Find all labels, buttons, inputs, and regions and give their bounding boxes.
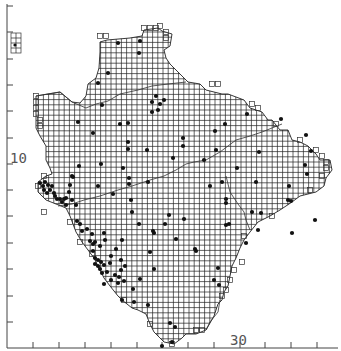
record-dot xyxy=(254,180,258,184)
record-dot xyxy=(96,81,100,85)
record-dot xyxy=(173,325,177,329)
record-dot xyxy=(214,148,218,152)
internal-boundaries xyxy=(36,82,282,330)
record-dot xyxy=(102,231,106,235)
inset-grid xyxy=(11,33,21,53)
region-grid xyxy=(0,0,341,351)
left-axis xyxy=(7,4,13,348)
record-dot xyxy=(208,184,212,188)
record-dot xyxy=(304,133,308,137)
record-dot xyxy=(212,278,216,282)
record-dot xyxy=(102,263,106,267)
record-dot xyxy=(245,112,249,116)
record-dot xyxy=(91,242,95,246)
record-dot xyxy=(129,198,133,202)
record-dot xyxy=(305,172,309,176)
record-dot xyxy=(113,273,117,277)
record-dot xyxy=(67,190,71,194)
record-dot xyxy=(109,254,113,258)
record-dot xyxy=(290,231,294,235)
record-dot xyxy=(99,162,103,166)
record-dot xyxy=(174,237,178,241)
record-dot xyxy=(68,183,72,187)
record-dot xyxy=(287,184,291,188)
record-dot xyxy=(132,300,136,304)
record-dot xyxy=(99,260,103,264)
record-dot xyxy=(145,148,149,152)
record-dot xyxy=(137,222,141,226)
record-dot xyxy=(116,41,120,45)
record-dot xyxy=(181,136,185,140)
record-dot xyxy=(117,275,121,279)
record-dot xyxy=(171,156,175,160)
record-dot xyxy=(80,229,84,233)
record-dot xyxy=(138,39,142,43)
record-dot xyxy=(123,264,127,268)
record-dot xyxy=(98,244,102,248)
record-dot xyxy=(152,267,156,271)
record-dot xyxy=(46,183,50,187)
record-dot xyxy=(313,218,317,222)
record-dot xyxy=(279,117,283,121)
record-dot xyxy=(250,210,254,214)
record-dot xyxy=(120,238,124,242)
record-dot xyxy=(224,201,228,205)
record-dot xyxy=(43,180,47,184)
record-dot xyxy=(98,267,102,271)
record-dot xyxy=(119,268,123,272)
record-dot xyxy=(116,281,120,285)
record-dot xyxy=(85,227,89,231)
record-dot xyxy=(119,258,123,262)
record-dot xyxy=(96,184,100,188)
record-dot xyxy=(286,198,290,202)
record-dot xyxy=(100,103,104,107)
record-dot xyxy=(70,198,74,202)
record-dot xyxy=(130,210,134,214)
distribution-map: 10 30 xyxy=(0,0,341,351)
record-dot xyxy=(259,211,263,215)
record-dot xyxy=(114,247,118,251)
record-dot xyxy=(244,241,248,245)
record-dot xyxy=(156,108,160,112)
record-dot xyxy=(111,192,115,196)
record-dot xyxy=(181,144,185,148)
record-dot xyxy=(126,140,130,144)
record-dot xyxy=(194,249,198,253)
record-dot xyxy=(224,223,228,227)
record-dot xyxy=(120,298,124,302)
record-dot xyxy=(109,278,113,282)
record-dot xyxy=(64,196,68,200)
record-dot xyxy=(91,249,95,253)
record-dot xyxy=(309,149,313,153)
record-dot xyxy=(75,219,79,223)
record-dot xyxy=(213,129,217,133)
record-dot xyxy=(88,239,92,243)
record-dot xyxy=(137,51,141,55)
record-dot xyxy=(77,164,81,168)
record-dot xyxy=(126,121,130,125)
record-dot xyxy=(42,188,46,192)
record-dot xyxy=(138,277,142,281)
record-dot xyxy=(108,261,112,265)
record-dot xyxy=(100,271,104,275)
record-dot xyxy=(64,203,68,207)
record-dot xyxy=(168,321,172,325)
record-dot xyxy=(71,175,75,179)
record-dot xyxy=(256,228,260,232)
record-dot xyxy=(162,98,166,102)
record-dot xyxy=(158,102,162,106)
record-dot xyxy=(48,188,52,192)
record-dot xyxy=(90,232,94,236)
record-dot xyxy=(106,71,110,75)
record-dot xyxy=(220,180,224,184)
record-dot xyxy=(45,191,49,195)
record-dot xyxy=(160,344,164,348)
record-dot xyxy=(74,203,78,207)
record-dot xyxy=(154,94,158,98)
record-dot xyxy=(150,110,154,114)
record-dot xyxy=(122,279,126,283)
record-dot xyxy=(50,184,54,188)
record-dot xyxy=(131,287,135,291)
record-dot xyxy=(146,303,150,307)
record-dot xyxy=(257,150,261,154)
